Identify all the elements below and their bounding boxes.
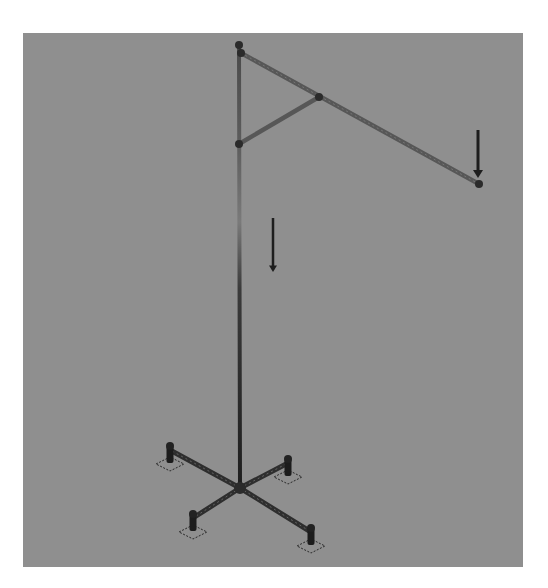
support-cap-icon (166, 442, 174, 450)
load-tip-point-load[interactable] (473, 130, 483, 178)
node-boom-tip[interactable] (475, 180, 483, 188)
loads-layer (269, 130, 483, 272)
model-viewport[interactable] (23, 33, 523, 567)
support-cap-icon (307, 524, 315, 532)
node-brace-mast-joint[interactable] (235, 140, 243, 148)
node-brace-boom-joint[interactable] (315, 93, 323, 101)
load-gravity-indicator[interactable] (269, 218, 277, 272)
member-mast[interactable] (239, 45, 240, 488)
member-texture-boom (241, 53, 479, 184)
node-boom-root[interactable] (237, 49, 245, 57)
member-base-leg-3[interactable] (193, 488, 240, 518)
arrow-down-icon (473, 170, 483, 178)
structure-canvas[interactable] (23, 33, 523, 567)
node-base-center[interactable] (234, 482, 246, 494)
support-cap-icon (189, 510, 197, 518)
members-layer (170, 45, 479, 532)
arrow-down-icon (269, 266, 277, 272)
support-cap-icon (284, 455, 292, 463)
member-brace[interactable] (239, 97, 319, 144)
node-mast-top[interactable] (235, 41, 243, 49)
